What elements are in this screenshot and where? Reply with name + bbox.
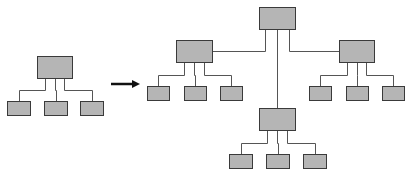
child-node (8, 102, 31, 116)
arrow-head-icon (132, 80, 140, 88)
root-node (38, 57, 73, 79)
root-node (260, 8, 296, 30)
child-node (221, 87, 243, 101)
transformation-arrow (111, 80, 140, 88)
child-node (304, 155, 327, 169)
child-node (383, 87, 405, 101)
child-node (230, 155, 253, 169)
child-node (310, 87, 332, 101)
connector-line (242, 131, 268, 155)
child-node (185, 87, 207, 101)
connector-line (321, 63, 348, 87)
expanded-tree (148, 8, 405, 169)
connector-line (205, 63, 232, 87)
child-node (45, 102, 68, 116)
branch-node (340, 41, 375, 63)
child-node (148, 87, 170, 101)
connector-line (367, 63, 394, 87)
original-tree (8, 57, 104, 116)
branch-node (260, 109, 296, 131)
connector-line (290, 30, 340, 52)
branch-node (177, 41, 213, 63)
connector-line (159, 63, 185, 87)
connector-line (278, 131, 279, 155)
connector-line (195, 63, 196, 87)
connector-line (65, 79, 93, 102)
hierarchy-diagram (0, 0, 409, 176)
connector-line (20, 79, 46, 102)
child-node (347, 87, 369, 101)
connector-line (288, 131, 316, 155)
child-node (81, 102, 104, 116)
connector-line (213, 30, 266, 52)
connector-line (56, 79, 57, 102)
child-node (267, 155, 290, 169)
